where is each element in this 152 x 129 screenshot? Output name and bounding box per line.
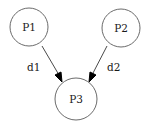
arrow-head-icon [55, 72, 62, 82]
edge-p1-p3: d1 [27, 46, 62, 82]
node-label-p1: P1 [22, 21, 36, 33]
arrow-head-icon [89, 72, 96, 82]
node-p3[interactable]: P3 [55, 78, 97, 120]
node-p2[interactable]: P2 [102, 9, 140, 47]
edge-line-d2 [92, 46, 107, 75]
node-p1[interactable]: P1 [10, 8, 48, 46]
edge-line-d1 [42, 46, 59, 75]
node-label-p2: P2 [114, 22, 128, 34]
node-label-p3: P3 [69, 93, 83, 105]
edge-label-d2: d2 [107, 61, 120, 73]
process-graph: d1 d2 P1 P2 P3 [0, 0, 152, 129]
edge-label-d1: d1 [27, 61, 40, 73]
edge-p2-p3: d2 [89, 46, 120, 82]
